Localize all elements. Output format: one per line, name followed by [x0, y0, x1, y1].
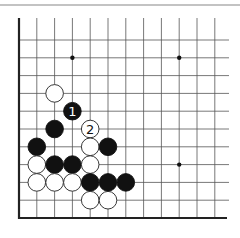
black-stone [46, 120, 64, 138]
white-stone-icon [99, 191, 117, 209]
white-stone-icon [81, 138, 99, 156]
move-number-label: 1 [68, 104, 76, 119]
white-stone [64, 174, 82, 192]
black-stone [117, 174, 135, 192]
white-stone [81, 191, 99, 209]
black-stone-icon [117, 174, 135, 192]
black-stone-icon [99, 138, 117, 156]
white-stone [46, 174, 64, 192]
white-stone-icon [64, 174, 82, 192]
white-stone [46, 85, 64, 103]
white-stone [81, 138, 99, 156]
black-stone [46, 156, 64, 174]
star-point-icon [177, 56, 181, 60]
black-stone-icon [64, 156, 82, 174]
black-stone-icon [28, 138, 46, 156]
black-stone [81, 174, 99, 192]
white-stone-icon [81, 191, 99, 209]
white-stone [81, 156, 99, 174]
white-stone-icon [81, 156, 99, 174]
white-stone-icon [28, 156, 46, 174]
black-stone: 1 [64, 102, 82, 120]
white-stone [28, 174, 46, 192]
go-board: 12 [0, 0, 240, 238]
black-stone-icon [46, 156, 64, 174]
black-stone-icon [46, 120, 64, 138]
white-stone-icon [46, 174, 64, 192]
black-stone [28, 138, 46, 156]
white-stone-icon [28, 174, 46, 192]
white-stone: 2 [81, 120, 99, 138]
black-stone [99, 138, 117, 156]
white-stone [28, 156, 46, 174]
black-stone-icon [81, 174, 99, 192]
black-stone [99, 174, 117, 192]
white-stone [99, 191, 117, 209]
black-stone-icon [99, 174, 117, 192]
star-point-icon [70, 56, 74, 60]
black-stone [64, 156, 82, 174]
move-number-label: 2 [86, 122, 94, 137]
star-point-icon [177, 162, 181, 166]
white-stone-icon [46, 85, 64, 103]
